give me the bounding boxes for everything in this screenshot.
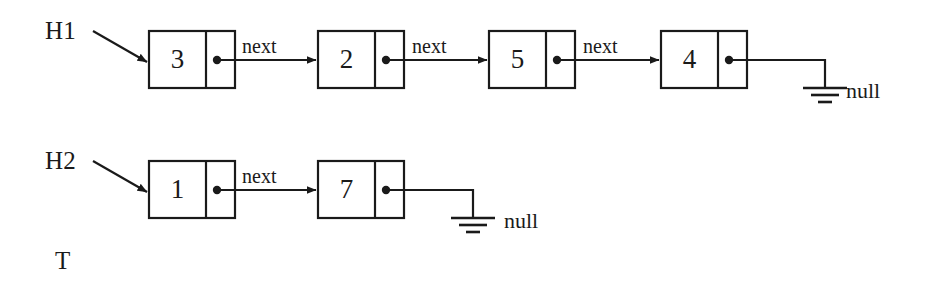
node-value-row2-2: 7	[318, 176, 375, 203]
node-value-row1-4: 4	[661, 46, 718, 73]
null-label-row2: null	[504, 210, 538, 232]
tail-label-t: T	[55, 248, 70, 273]
null-label-row1: null	[846, 80, 880, 102]
head-label-h2: H2	[45, 148, 76, 173]
edge-label-row1-3: next	[583, 36, 617, 56]
node-value-row2-1: 1	[149, 176, 206, 203]
head-arrow-h1	[93, 31, 147, 62]
node-value-row1-3: 5	[489, 46, 546, 73]
head-label-h1: H1	[45, 18, 76, 43]
edge-label-row1-2: next	[412, 36, 446, 56]
node-value-row1-2: 2	[318, 46, 375, 73]
edge-label-row2-1: next	[242, 166, 276, 186]
head-arrow-h2	[93, 161, 147, 192]
diagram-canvas	[0, 0, 931, 296]
edge-label-row1-1: next	[242, 36, 276, 56]
node-value-row1-1: 3	[149, 46, 206, 73]
linked-list-diagram: H1 3 2 5 4 next next next null H2 1 7 ne…	[0, 0, 931, 296]
